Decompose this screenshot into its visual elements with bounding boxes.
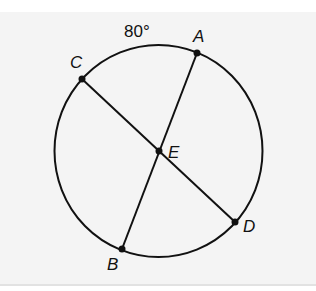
point-a (194, 50, 201, 57)
point-e (156, 148, 163, 155)
point-d (232, 219, 239, 226)
point-c (79, 76, 86, 83)
label-e: E (168, 143, 180, 162)
label-a: A (192, 27, 204, 46)
arc-label: 80° (124, 22, 150, 41)
label-c: C (70, 53, 83, 72)
label-d: D (243, 217, 255, 236)
point-b (119, 246, 126, 253)
label-b: B (107, 255, 118, 274)
circle-diagram: 80° A C E D B (0, 0, 316, 291)
